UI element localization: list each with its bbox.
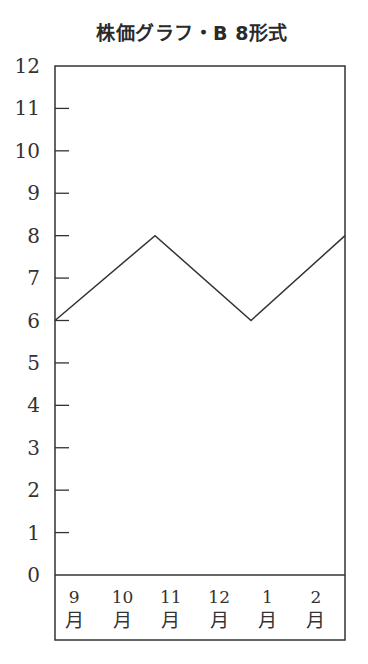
- y-tick-label: 0: [27, 563, 40, 587]
- plot-frame: [55, 66, 345, 640]
- x-category-number: 9: [69, 587, 80, 607]
- y-tick-label: 2: [27, 478, 40, 502]
- y-tick-label: 12: [15, 54, 40, 78]
- x-category-unit: 月: [113, 609, 132, 631]
- data-line: [55, 236, 345, 321]
- y-tick-label: 11: [15, 96, 40, 120]
- y-tick-label: 3: [27, 436, 40, 460]
- y-tick-label: 9: [27, 181, 40, 205]
- y-tick-label: 10: [15, 139, 40, 163]
- y-tick-label: 6: [27, 309, 40, 333]
- y-tick-label: 7: [27, 266, 40, 290]
- x-category-number: 1: [262, 587, 273, 607]
- line-chart: 01234567891011129月10月11月12月1月2月: [0, 0, 368, 664]
- y-tick-label: 5: [27, 351, 40, 375]
- y-tick-label: 8: [27, 224, 40, 248]
- x-category-number: 12: [208, 587, 230, 607]
- x-category-unit: 月: [306, 609, 325, 631]
- x-category-unit: 月: [161, 609, 180, 631]
- x-category-unit: 月: [258, 609, 277, 631]
- x-category-number: 10: [112, 587, 134, 607]
- y-tick-label: 4: [27, 393, 40, 417]
- y-tick-label: 1: [27, 521, 40, 545]
- x-category-number: 2: [310, 587, 321, 607]
- x-category-unit: 月: [210, 609, 229, 631]
- x-category-unit: 月: [65, 609, 84, 631]
- x-category-number: 11: [160, 587, 182, 607]
